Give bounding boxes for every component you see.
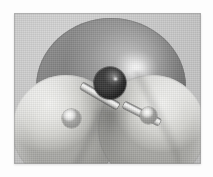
- lobe-intersection-cusp: [92, 109, 128, 164]
- hydrogen-right-atom-ball: [140, 107, 157, 124]
- figure-canvas: [0, 0, 213, 177]
- oxygen-atom-ball: [94, 67, 126, 99]
- molecular-model-image: [14, 13, 201, 164]
- hydrogen-left-atom-ball: [62, 109, 81, 128]
- oxygen-atom-specular-highlight: [112, 76, 119, 82]
